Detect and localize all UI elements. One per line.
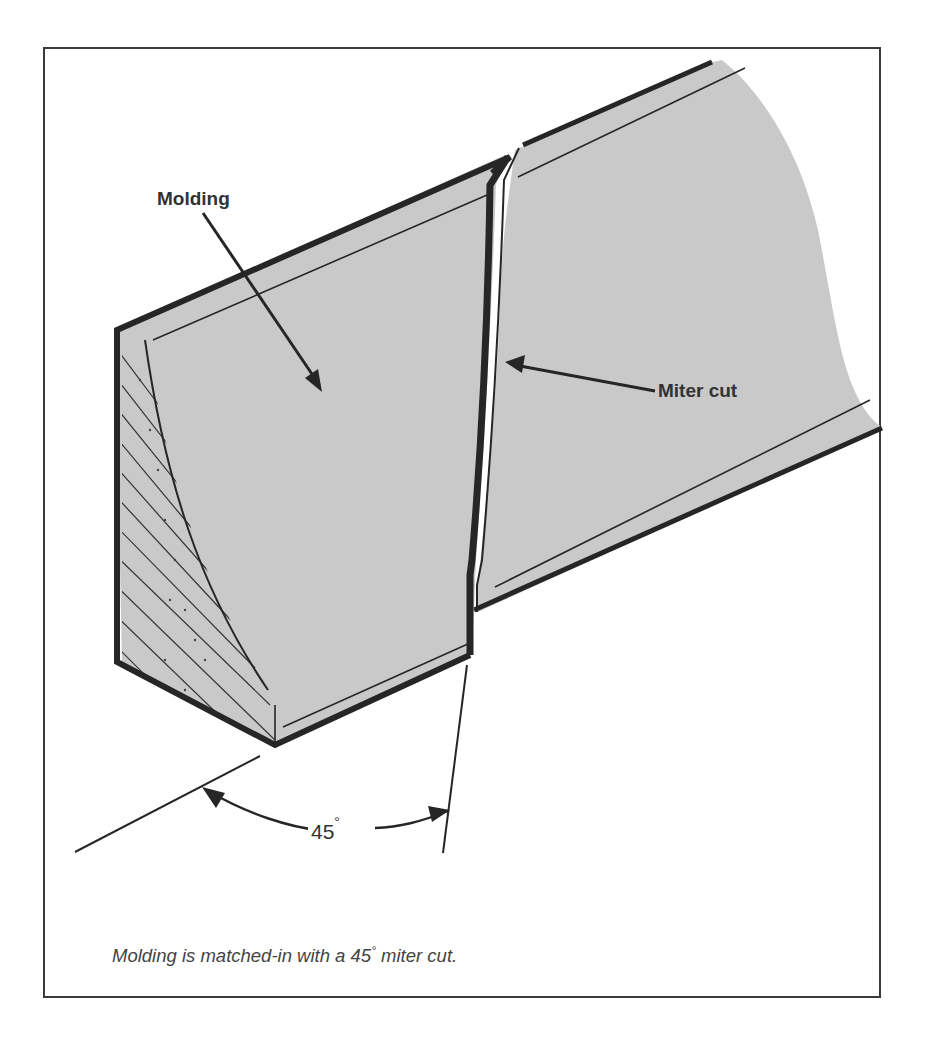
angle-cut-line: [443, 665, 467, 853]
figure-caption: Molding is matched-in with a 45° miter c…: [112, 944, 457, 967]
molding-illustration: [0, 0, 939, 1042]
angle-value: 45: [311, 820, 334, 843]
right-molding-piece: [478, 60, 882, 612]
miter-cut-label: Miter cut: [658, 380, 737, 402]
molding-label: Molding: [157, 188, 230, 210]
angle-label: 45°: [308, 818, 343, 844]
caption-text-end: miter cut.: [376, 945, 457, 966]
caption-text-start: Molding is matched-in with a 45: [112, 945, 371, 966]
degree-symbol: °: [334, 814, 340, 830]
angle-arrow-left: [202, 787, 225, 808]
